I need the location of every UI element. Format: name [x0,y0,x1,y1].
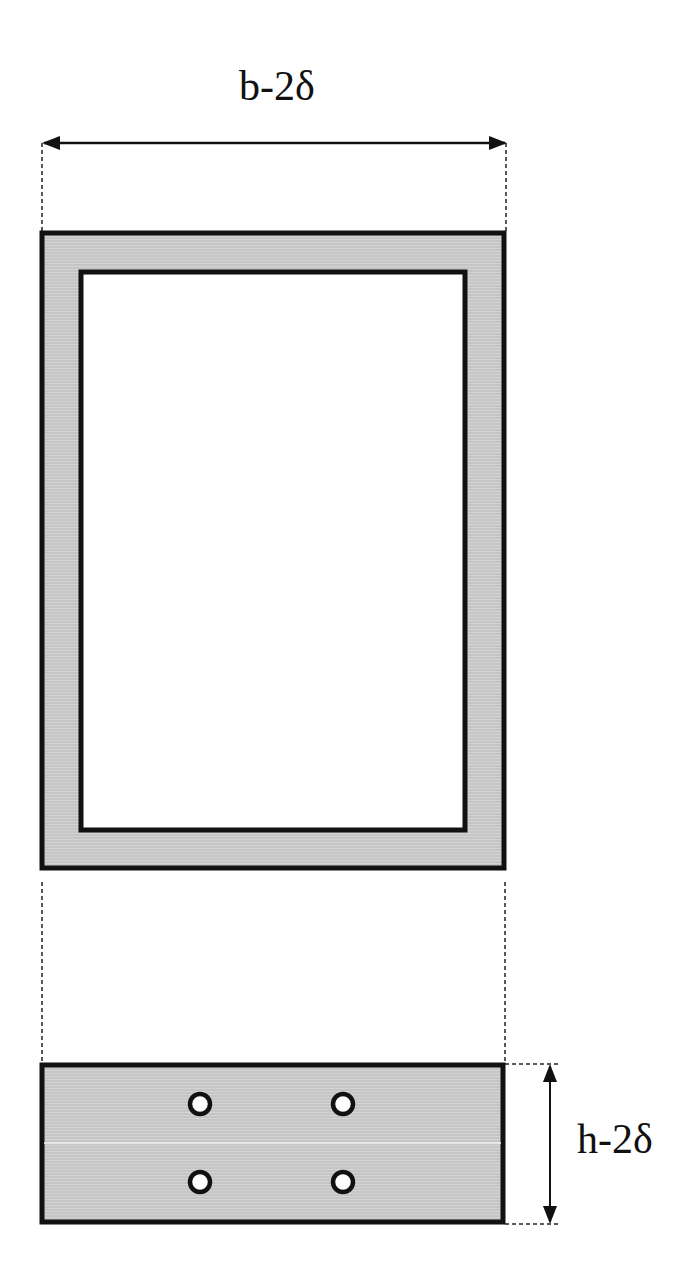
width-dimension-arrow [42,136,507,150]
hollow-section [42,233,504,868]
arrowhead-right-icon [489,136,507,150]
arrowhead-left-icon [42,136,60,150]
solid-section [42,1065,503,1222]
height-dimension-arrow [543,1064,557,1224]
hollow-section-inner [81,272,465,830]
height-dimension-label: h-2δ [577,1116,653,1162]
hole-icon [333,1172,353,1192]
hole-icon [333,1094,353,1114]
arrowhead-up-icon [543,1064,557,1082]
hole-icon [190,1094,210,1114]
cross-section-diagram: b-2δ h-2δ [0,0,689,1283]
arrowhead-down-icon [543,1206,557,1224]
hole-icon [190,1172,210,1192]
width-dimension-label: b-2δ [239,63,315,109]
